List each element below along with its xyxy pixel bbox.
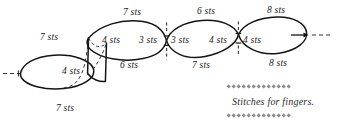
label-loop-2-top: 7 sts — [123, 8, 141, 18]
label-loop-2-inner-right: 3 sts — [139, 36, 157, 46]
knitting-diagram: 7 sts 7 sts 4 sts 4 sts 7 sts 6 sts 3 st… — [0, 0, 337, 130]
label-loop-3-inner-left: 3 sts — [171, 36, 189, 46]
label-loop-4-top: 8 sts — [267, 6, 285, 16]
legend-ornament-top — [227, 84, 290, 89]
loop-left-outline — [20, 55, 93, 89]
legend-caption: Stitches for fingers. — [232, 96, 314, 107]
label-cylinder-inner: 4 sts — [102, 36, 120, 46]
legend-ornament-bottom — [227, 113, 290, 118]
label-loop-4-inner-left: 4 sts — [243, 36, 261, 46]
label-loop-3-top: 6 sts — [197, 7, 215, 17]
left-tip-dashed-lead — [3, 71, 22, 77]
label-left-loop-inner: 4 sts — [62, 67, 80, 77]
label-loop-3-bottom: 7 sts — [192, 61, 210, 71]
label-left-loop-top: 7 sts — [40, 33, 58, 43]
label-loop-2-bottom: 6 sts — [120, 61, 138, 71]
cylinder-connector — [64, 38, 107, 88]
label-loop-4-bottom: 8 sts — [269, 59, 287, 69]
label-left-loop-bottom: 7 sts — [56, 104, 74, 114]
right-tip-arrow — [291, 32, 330, 37]
label-loop-3-inner-right: 4 sts — [209, 36, 227, 46]
